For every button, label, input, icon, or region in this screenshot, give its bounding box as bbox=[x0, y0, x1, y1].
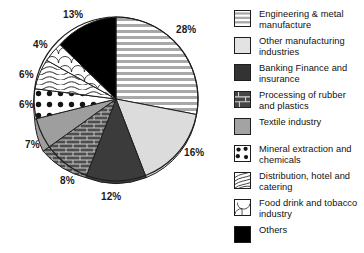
legend-swatch-solid-dark-gray-icon bbox=[234, 64, 251, 81]
pie-label-8: 8% bbox=[60, 176, 75, 186]
legend-item-engineering-metal-manufacture[interactable]: Engineering & metal manufacture bbox=[234, 9, 364, 32]
legend-swatch-polka-dots-icon bbox=[234, 145, 251, 162]
pie-label-4: 4% bbox=[33, 40, 48, 50]
legend-item-food-drink-tobacco-industry[interactable]: Food drink and tobacco industry bbox=[234, 198, 364, 221]
legend-swatch-scallop-fan-icon bbox=[234, 199, 251, 216]
legend-label: Textile industry bbox=[259, 117, 321, 128]
legend-item-mineral-extraction-chemicals[interactable]: Mineral extraction and chemicals bbox=[234, 144, 364, 167]
pie-label-12: 12% bbox=[101, 192, 121, 202]
legend-swatch-horizontal-stripes-icon bbox=[234, 10, 251, 27]
pie-label-16: 16% bbox=[184, 148, 204, 158]
legend-item-textile-industry[interactable]: Textile industry bbox=[234, 117, 364, 140]
legend-item-distribution-hotel-catering[interactable]: Distribution, hotel and catering bbox=[234, 171, 364, 194]
legend-item-banking-finance-insurance[interactable]: Banking Finance and insurance bbox=[234, 63, 364, 86]
legend-label: Food drink and tobacco industry bbox=[259, 198, 364, 219]
pie-label-28: 28% bbox=[176, 25, 196, 35]
chart-legend: Engineering & metal manufacture Other ma… bbox=[234, 9, 364, 252]
pie-chart-figure: 28% 16% 12% 8% 7% 6% 6% 4% 13% Engineeri… bbox=[0, 0, 364, 253]
pie-label-6-distribution: 6% bbox=[19, 70, 34, 80]
legend-item-others[interactable]: Others bbox=[234, 225, 364, 248]
legend-label: Engineering & metal manufacture bbox=[259, 9, 364, 30]
legend-label: Others bbox=[259, 225, 287, 236]
legend-swatch-solid-light-gray-icon bbox=[234, 37, 251, 54]
pie-label-6-mineral: 6% bbox=[19, 100, 34, 110]
pie-label-13: 13% bbox=[63, 10, 83, 20]
legend-label: Mineral extraction and chemicals bbox=[259, 144, 364, 165]
legend-label: Other manufacturing industries bbox=[259, 36, 364, 57]
legend-swatch-solid-black-icon bbox=[234, 226, 251, 243]
legend-label: Processing of rubber and plastics bbox=[259, 90, 364, 111]
legend-label: Banking Finance and insurance bbox=[259, 63, 364, 84]
legend-item-processing-rubber-plastics[interactable]: Processing of rubber and plastics bbox=[234, 90, 364, 113]
pie-label-7: 7% bbox=[25, 140, 40, 150]
legend-item-other-manufacturing-industries[interactable]: Other manufacturing industries bbox=[234, 36, 364, 59]
legend-swatch-brick-icon bbox=[234, 91, 251, 108]
chart-plot-area: 28% 16% 12% 8% 7% 6% 6% 4% 13% bbox=[0, 0, 232, 253]
legend-swatch-solid-medium-gray-icon bbox=[234, 118, 251, 135]
legend-swatch-wavy-lines-icon bbox=[234, 172, 251, 189]
legend-label: Distribution, hotel and catering bbox=[259, 171, 364, 192]
pie-chart-svg bbox=[0, 0, 232, 253]
